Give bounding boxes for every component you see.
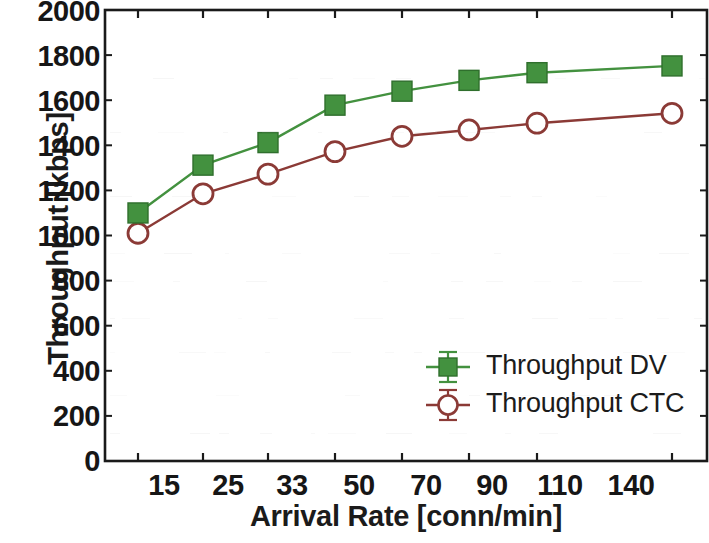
legend-item-throughput-ctc: Throughput CTC <box>418 386 698 424</box>
x-axis-title: Arrival Rate [conn/min] <box>105 500 707 533</box>
legend-label: Throughput CTC <box>486 388 684 419</box>
legend-marker-open-circle <box>418 386 478 424</box>
legend-marker-filled-square <box>418 348 478 386</box>
plot-area <box>0 0 709 543</box>
chart-figure: Throughput [kbps] 2000 1800 1600 1400 12… <box>0 0 709 543</box>
legend-item-throughput-dv: Throughput DV <box>418 348 698 386</box>
chart-legend: Throughput DV Throughput CTC <box>418 348 698 428</box>
legend-label: Throughput DV <box>486 350 667 381</box>
